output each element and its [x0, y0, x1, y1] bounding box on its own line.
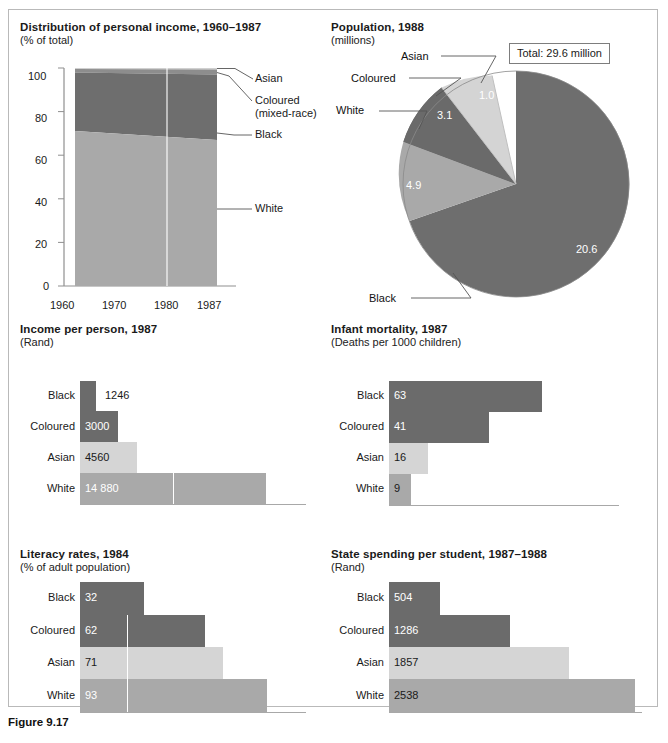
bar-category-asian: Asian	[331, 451, 384, 463]
bar-category-white: White	[20, 689, 75, 701]
panel-income-per-person: Income per person, 1987 (Rand) Black Col…	[20, 323, 325, 518]
bar-category-white: White	[331, 482, 384, 494]
bar-category-white: White	[331, 689, 384, 701]
bar-category-asian: Asian	[331, 656, 384, 668]
bar-category-coloured: Coloured	[20, 420, 75, 432]
pie-value-black: 20.6	[576, 243, 597, 255]
panel-subtitle: (Deaths per 1000 children)	[331, 336, 651, 349]
bar-value-white: 93	[85, 689, 97, 701]
bar-value-black: 63	[394, 389, 406, 401]
bar-white	[80, 679, 267, 712]
bar-black	[389, 381, 542, 412]
bar-value-white: 14 880	[85, 482, 119, 494]
bar-coloured	[80, 615, 205, 647]
callout-coloured: Coloured	[255, 94, 300, 107]
bar-asian	[80, 647, 223, 679]
bar-value-coloured: 3000	[85, 420, 109, 432]
panel-literacy: Literacy rates, 1984 (% of adult populat…	[20, 548, 325, 713]
bar-category-black: Black	[20, 591, 75, 603]
panel-title: State spending per student, 1987–1988	[331, 548, 651, 561]
pie-label-coloured: Coloured	[351, 72, 396, 84]
callout-coloured-note: (mixed-race)	[255, 107, 317, 120]
panel-subtitle: (% of adult population)	[20, 561, 325, 574]
bar-baseline	[80, 712, 306, 713]
bar-category-coloured: Coloured	[331, 420, 384, 432]
bar-category-asian: Asian	[20, 656, 75, 668]
bar-baseline	[389, 712, 642, 713]
figure-caption: Figure 9.17	[8, 716, 69, 728]
panel-income-distribution: Distribution of personal income, 1960–19…	[20, 21, 325, 311]
pie-value-coloured: 3.1	[437, 109, 452, 121]
bar-category-coloured: Coloured	[331, 624, 384, 636]
callout-black: Black	[255, 128, 282, 141]
bar-value-black: 504	[394, 591, 412, 603]
bar-value-asian: 4560	[85, 451, 109, 463]
bar-value-coloured: 41	[394, 420, 406, 432]
panel-population: Population, 1988 (millions) Total: 29.6 …	[331, 21, 651, 321]
panel-title: Literacy rates, 1984	[20, 548, 325, 561]
bar-baseline	[80, 504, 306, 505]
bar-category-black: Black	[331, 591, 384, 603]
area-chart-svg	[20, 21, 325, 311]
bar-value-asian: 16	[394, 451, 406, 463]
bar-white	[389, 679, 635, 712]
pie-value-asian: 1.0	[479, 89, 494, 101]
figure-page: Distribution of personal income, 1960–19…	[0, 0, 668, 743]
bar-value-white: 2538	[394, 689, 418, 701]
pie-label-asian: Asian	[401, 50, 429, 62]
panel-title: Infant mortality, 1987	[331, 323, 651, 336]
bar-gridline	[127, 615, 128, 712]
callout-white: White	[255, 202, 283, 215]
bar-category-asian: Asian	[20, 451, 75, 463]
bar-value-coloured: 1286	[394, 624, 418, 636]
pie-value-white: 4.9	[406, 179, 421, 191]
panel-subtitle: (Rand)	[331, 561, 651, 574]
callout-asian: Asian	[255, 72, 283, 85]
bar-value-white: 9	[394, 482, 400, 494]
bar-gridline	[173, 473, 174, 504]
panel-title: Income per person, 1987	[20, 323, 325, 336]
panel-state-spending: State spending per student, 1987–1988 (R…	[331, 548, 651, 713]
bar-value-black: 1246	[105, 389, 129, 401]
pie-chart-svg	[331, 21, 651, 321]
bar-category-coloured: Coloured	[20, 624, 75, 636]
pie-label-black: Black	[369, 292, 396, 304]
panel-subtitle: (Rand)	[20, 336, 325, 349]
bar-category-black: Black	[20, 389, 75, 401]
bar-value-asian: 1857	[394, 656, 418, 668]
figure-frame: Distribution of personal income, 1960–19…	[8, 9, 658, 707]
panel-infant-mortality: Infant mortality, 1987 (Deaths per 1000 …	[331, 323, 651, 518]
bar-value-black: 32	[85, 591, 97, 603]
bar-baseline	[389, 505, 619, 506]
bar-category-white: White	[20, 482, 75, 494]
bar-black	[80, 381, 96, 411]
pie-label-white: White	[336, 104, 364, 116]
bar-value-asian: 71	[85, 656, 97, 668]
bar-category-black: Black	[331, 389, 384, 401]
bar-value-coloured: 62	[85, 624, 97, 636]
